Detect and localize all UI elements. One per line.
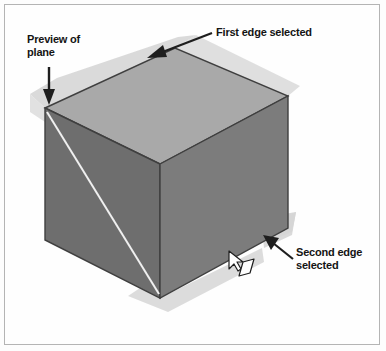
figure-screenshot: Preview of plane First edge selected Sec… <box>0 0 386 351</box>
arrow-second-edge-selected <box>263 235 293 259</box>
annotation-label-first-edge-selected: First edge selected <box>216 26 336 39</box>
annotation-label-second-edge-selected: Second edge selected <box>296 246 382 272</box>
annotation-label-preview-of-plane: Preview of plane <box>27 33 122 59</box>
